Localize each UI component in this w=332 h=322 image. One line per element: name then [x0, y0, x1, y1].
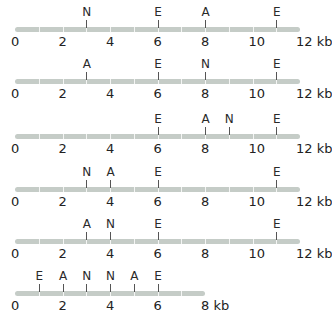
kb-tick: [39, 27, 40, 32]
site-marker: [276, 20, 277, 28]
kb-tick: [110, 134, 111, 139]
site-label-E: E: [270, 6, 284, 19]
kb-tick: [253, 79, 254, 84]
site-marker: [110, 232, 111, 240]
kb-tick: [181, 291, 182, 296]
kb-tick: [229, 187, 230, 192]
site-marker: [86, 20, 87, 28]
kb-tick: [205, 239, 206, 244]
axis-label: 0: [11, 195, 19, 209]
restriction-map-6: EANNAE02468 kb: [0, 274, 323, 322]
kb-tick: [253, 27, 254, 32]
site-label-N: N: [104, 270, 118, 283]
axis-label: 10: [249, 247, 266, 261]
site-label-N: N: [80, 270, 94, 283]
kb-tick: [39, 134, 40, 139]
site-label-A: A: [80, 218, 94, 231]
kb-tick: [181, 187, 182, 192]
kb-tick: [229, 27, 230, 32]
kb-tick: [253, 134, 254, 139]
axis-label: 6: [154, 299, 162, 313]
restriction-map-2: AENE024681012 kb: [0, 62, 323, 112]
axis-label: 10: [249, 87, 266, 101]
kb-tick: [181, 239, 182, 244]
site-marker: [276, 72, 277, 80]
site-marker: [276, 232, 277, 240]
site-label-A: A: [199, 113, 213, 126]
site-marker: [158, 180, 159, 188]
site-marker: [229, 127, 230, 135]
site-marker: [110, 180, 111, 188]
kb-tick: [181, 79, 182, 84]
site-label-E: E: [151, 58, 165, 71]
axis-label: 10: [249, 142, 266, 156]
kb-tick: [253, 187, 254, 192]
axis-label: 4: [106, 195, 114, 209]
site-label-A: A: [199, 6, 213, 19]
axis-label: 8: [201, 35, 209, 49]
axis-label: 2: [59, 247, 67, 261]
kb-tick: [63, 79, 64, 84]
site-marker: [158, 284, 159, 292]
restriction-map-4: NAEE024681012 kb: [0, 170, 323, 220]
kb-tick: [134, 187, 135, 192]
axis-label: 12 kb: [296, 195, 332, 209]
axis-label: 2: [59, 195, 67, 209]
axis-label: 0: [11, 299, 19, 313]
kb-tick: [39, 79, 40, 84]
axis-label: 4: [106, 247, 114, 261]
site-label-N: N: [104, 218, 118, 231]
axis-label: 4: [106, 142, 114, 156]
site-label-E: E: [270, 58, 284, 71]
site-marker: [39, 284, 40, 292]
kb-tick: [86, 134, 87, 139]
kb-tick: [39, 239, 40, 244]
site-marker: [110, 284, 111, 292]
kb-tick: [229, 79, 230, 84]
axis-label: 2: [59, 142, 67, 156]
site-marker: [158, 20, 159, 28]
axis-label: 0: [11, 35, 19, 49]
site-marker: [158, 127, 159, 135]
site-label-E: E: [270, 218, 284, 231]
site-label-N: N: [199, 58, 213, 71]
axis-label: 12 kb: [296, 87, 332, 101]
axis-label: 6: [154, 35, 162, 49]
site-marker: [205, 127, 206, 135]
site-marker: [63, 284, 64, 292]
kb-tick: [63, 239, 64, 244]
kb-tick: [205, 187, 206, 192]
kb-tick: [181, 134, 182, 139]
axis-label: 2: [59, 87, 67, 101]
site-label-E: E: [151, 218, 165, 231]
axis-label: 0: [11, 247, 19, 261]
site-label-E: E: [270, 166, 284, 179]
kb-tick: [134, 27, 135, 32]
kb-tick: [39, 187, 40, 192]
site-marker: [158, 232, 159, 240]
kb-tick: [134, 79, 135, 84]
site-marker: [158, 72, 159, 80]
kb-tick: [63, 27, 64, 32]
site-label-E: E: [151, 166, 165, 179]
axis-label: 2: [59, 35, 67, 49]
site-marker: [86, 180, 87, 188]
axis-label: 8: [201, 87, 209, 101]
axis-label: 12 kb: [296, 142, 332, 156]
kb-tick: [229, 239, 230, 244]
site-label-N: N: [80, 6, 94, 19]
axis-label: 0: [11, 142, 19, 156]
site-label-N: N: [80, 166, 94, 179]
axis-label: 6: [154, 142, 162, 156]
site-label-E: E: [270, 113, 284, 126]
kb-tick: [134, 239, 135, 244]
axis-label: 8: [201, 195, 209, 209]
kb-tick: [110, 79, 111, 84]
kb-tick: [181, 27, 182, 32]
site-label-A: A: [56, 270, 70, 283]
site-label-E: E: [151, 113, 165, 126]
axis-label: 6: [154, 195, 162, 209]
axis-label: 10: [249, 195, 266, 209]
axis-label: 12 kb: [296, 35, 332, 49]
site-marker: [276, 180, 277, 188]
